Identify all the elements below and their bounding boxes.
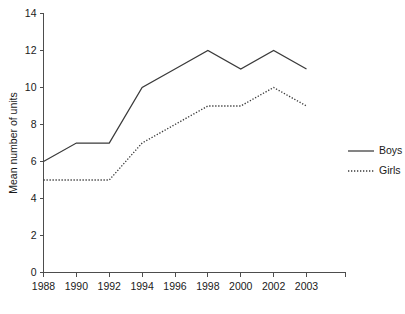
y-tick-label: 10 (25, 81, 37, 93)
x-tick-label: 1996 (163, 280, 187, 292)
y-tick-label: 6 (31, 155, 37, 167)
series-lines (44, 51, 307, 181)
x-tick-label: 2003 (295, 280, 319, 292)
x-tick-label: 2002 (262, 280, 286, 292)
line-chart: 02468101214 1988199019921994199619982000… (0, 0, 405, 314)
x-tick-label: 1998 (196, 280, 220, 292)
series-line-boys (44, 51, 307, 162)
series-line-girls (44, 88, 307, 181)
x-axis: 198819901992199419961998200020022003 (32, 273, 346, 292)
legend-label-boys: Boys (379, 144, 402, 156)
y-tick-label: 2 (31, 229, 37, 241)
legend-label-girls: Girls (379, 164, 401, 176)
x-tick-label: 1990 (65, 280, 89, 292)
y-axis: 02468101214 (25, 7, 44, 278)
y-tick-label: 0 (31, 266, 37, 278)
y-tick-label: 8 (31, 118, 37, 130)
y-tick-label: 12 (25, 44, 37, 56)
x-tick-label: 1988 (32, 280, 56, 292)
x-tick-label: 1994 (130, 280, 154, 292)
chart-legend: BoysGirls (348, 144, 402, 176)
y-axis-title: Mean number of units (7, 92, 19, 194)
x-tick-label: 2000 (229, 280, 253, 292)
x-tick-label: 1992 (98, 280, 122, 292)
chart-canvas: 02468101214 1988199019921994199619982000… (0, 0, 405, 314)
y-tick-label: 4 (31, 192, 37, 204)
y-tick-label: 14 (25, 7, 37, 19)
